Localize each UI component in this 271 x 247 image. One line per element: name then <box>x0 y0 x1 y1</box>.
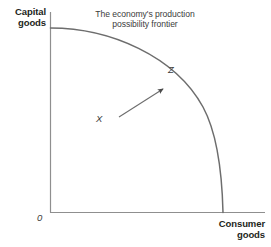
ppf-curve <box>51 28 224 213</box>
point-label-z: Z <box>168 65 174 76</box>
x-to-z-arrow <box>119 89 163 117</box>
point-label-x: X <box>96 114 102 125</box>
x-axis-label: Consumer goods <box>183 219 265 240</box>
y-axis-label: Capital goods <box>0 7 46 28</box>
origin-label: 0 <box>37 213 42 224</box>
ppf-figure: Capital goods Consumer goods 0 The econo… <box>0 0 271 247</box>
diagram-canvas <box>0 0 271 247</box>
figure-caption: The economy's production possibility fro… <box>75 10 215 29</box>
